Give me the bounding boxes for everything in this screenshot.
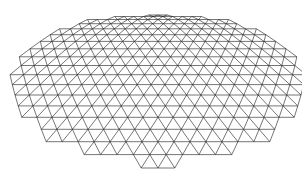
triangulated-mesh: [0, 0, 302, 169]
mesh-lines: [10, 15, 302, 168]
mesh-diagram: [0, 0, 302, 169]
